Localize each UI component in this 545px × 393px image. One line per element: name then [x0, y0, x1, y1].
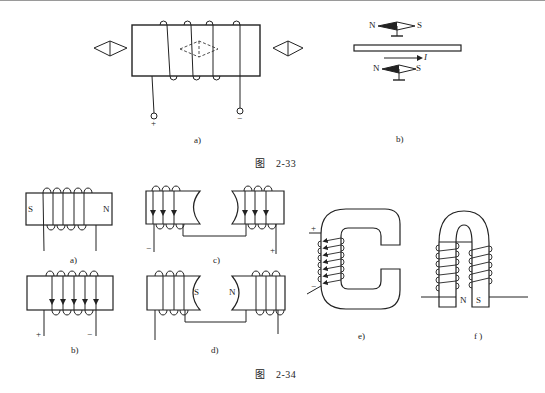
fig234d-right-pole: N — [229, 287, 236, 297]
fig234c-plus-label: + — [270, 245, 275, 255]
fig233a-plus-label: + — [151, 118, 156, 128]
fig234f-panel-label: f ) — [474, 331, 482, 341]
fig234c-minus-label: − — [146, 243, 151, 253]
fig233b-wire-compass — [354, 22, 461, 80]
fig233a-panel-label: a) — [194, 135, 201, 145]
fig234d-left-pole: S — [194, 287, 199, 297]
fig234-caption: 图 2-34 — [255, 366, 296, 381]
fig234d-split-core — [147, 271, 285, 340]
fig234c-split-core — [146, 186, 284, 254]
fig234e-plus-label: + — [311, 223, 316, 233]
fig233b-panel-label: b) — [396, 134, 404, 144]
fig234c-panel-label: c) — [213, 255, 220, 265]
fig233b-bottom-north: N — [373, 63, 380, 73]
fig234e-minus-label: − — [311, 281, 316, 291]
fig233-caption: 图 2-33 — [255, 155, 296, 170]
fig233b-top-south: S — [417, 20, 422, 30]
fig234b-panel-label: b) — [71, 345, 79, 355]
fig234a-right-pole: N — [103, 204, 110, 214]
fig233a-solenoid — [94, 21, 303, 119]
fig234a-solenoid — [26, 188, 112, 251]
fig233b-current-label: I — [424, 52, 427, 62]
fig234e-panel-label: e) — [358, 331, 365, 341]
fig234b-solenoid — [27, 271, 113, 336]
fig234e-c-core — [307, 209, 400, 309]
fig233b-bottom-south: S — [416, 63, 421, 73]
fig234a-panel-label: a) — [70, 255, 77, 265]
fig234f-left-pole: N — [460, 295, 467, 305]
diagram-canvas — [0, 0, 545, 393]
fig233b-top-north: N — [369, 20, 376, 30]
fig234a-left-pole: S — [28, 204, 33, 214]
fig234f-u-core — [421, 211, 528, 307]
fig234b-plus-label: + — [36, 329, 41, 339]
fig234b-minus-label: − — [87, 329, 92, 339]
fig234f-right-pole: S — [476, 295, 481, 305]
fig234d-panel-label: d) — [211, 345, 219, 355]
fig233a-minus-label: − — [237, 113, 242, 123]
